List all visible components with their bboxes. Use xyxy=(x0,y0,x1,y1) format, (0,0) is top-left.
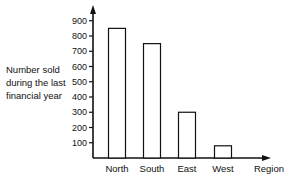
bar-south xyxy=(144,44,161,158)
x-tick-label: East xyxy=(177,163,196,174)
y-tick-label: 800 xyxy=(72,31,87,41)
y-tick-label: 500 xyxy=(72,77,87,87)
y-tick-label: 200 xyxy=(72,123,87,133)
x-tick-label: South xyxy=(140,163,165,174)
x-axis-arrow-icon xyxy=(262,155,271,161)
y-axis-arrow-icon xyxy=(90,5,96,14)
x-axis-label: Region xyxy=(254,163,284,174)
bar-east xyxy=(179,112,196,158)
y-tick-label: 600 xyxy=(72,62,87,72)
y-tick-label: 100 xyxy=(72,138,87,148)
bar-chart: 100200300400500600700800900NorthSouthEas… xyxy=(0,0,290,182)
y-tick-label: 700 xyxy=(72,46,87,56)
x-tick-label: North xyxy=(105,163,128,174)
y-tick-label: 900 xyxy=(72,16,87,26)
bar-north xyxy=(109,28,126,158)
y-tick-label: 300 xyxy=(72,107,87,117)
y-tick-label: 400 xyxy=(72,92,87,102)
x-tick-label: West xyxy=(212,163,234,174)
bar-west xyxy=(215,146,232,158)
